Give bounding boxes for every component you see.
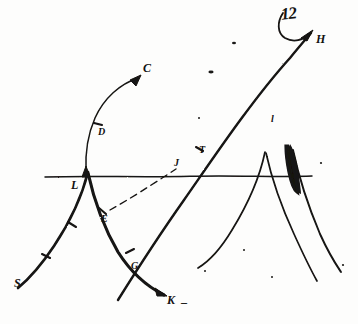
label-c: C	[143, 62, 151, 74]
label-l: L	[71, 179, 78, 191]
curve-left-branch-upper	[86, 78, 138, 172]
label-k: K	[167, 294, 175, 306]
diagram-canvas: 12 C H D T J L l E G S K _	[0, 0, 358, 324]
arrowhead-to-k	[155, 288, 167, 296]
label-k-dash: _	[181, 292, 187, 304]
label-e: E	[101, 214, 108, 224]
label-t: T	[199, 145, 205, 155]
arrowhead-to-c	[130, 75, 141, 86]
curve-left-caustic-main	[88, 173, 164, 295]
shaded-blob	[286, 144, 301, 194]
curve-right-cusp-left	[198, 152, 265, 268]
curve-dashed-connector	[110, 169, 176, 210]
label-g: G	[131, 261, 138, 271]
annotation-twelve: 12	[280, 3, 297, 24]
label-s: S	[14, 277, 21, 289]
curve-right-shaded-branch	[293, 150, 341, 272]
ink-specks	[198, 42, 344, 278]
sketch-drawing	[0, 0, 358, 324]
label-small-l: l	[271, 114, 274, 124]
label-d: D	[98, 127, 105, 137]
label-h: H	[316, 33, 325, 45]
label-j: J	[174, 158, 179, 168]
curve-ticks	[42, 123, 203, 258]
